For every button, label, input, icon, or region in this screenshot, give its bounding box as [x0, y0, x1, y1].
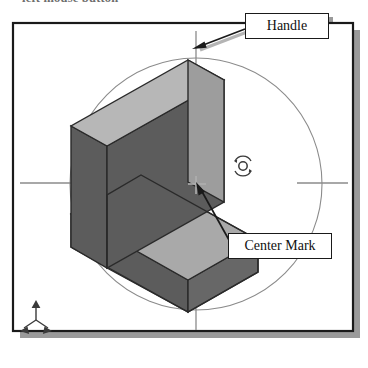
- wall-left-face: [71, 126, 107, 268]
- center-mark-callout[interactable]: Center Mark: [228, 233, 332, 259]
- figure-svg: [0, 0, 368, 368]
- wall-right-face: [188, 60, 224, 202]
- figure-canvas: Handle Center Mark: [0, 0, 368, 368]
- handle-callout[interactable]: Handle: [245, 13, 329, 39]
- center-mark-callout-label: Center Mark: [244, 239, 315, 253]
- handle-callout-label: Handle: [267, 19, 307, 33]
